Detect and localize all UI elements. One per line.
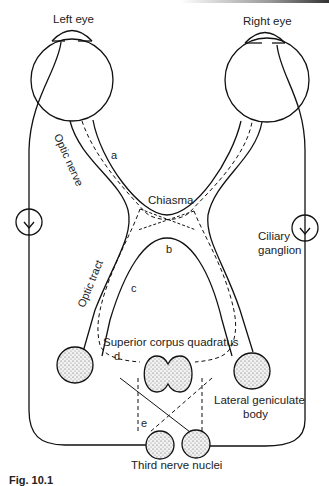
label-lateral-geniculate-body: body [243, 409, 268, 421]
label-right-eye: Right eye [243, 16, 292, 28]
label-chiasma: Chiasma [148, 195, 193, 207]
superior-corpus-quadratus [144, 356, 192, 392]
label-ganglion: ganglion [258, 245, 301, 257]
label-lateral-geniculate: Lateral geniculate [214, 395, 305, 407]
lesion-marker-e: e [141, 418, 147, 429]
figure-caption: Fig. 10.1 [9, 474, 53, 486]
lesion-marker-d: d [114, 351, 120, 362]
lesion-marker-c: c [131, 283, 137, 294]
right-lateral-geniculate-body [234, 353, 270, 389]
label-left-eye: Left eye [53, 14, 94, 26]
label-ciliary: Ciliary [258, 231, 290, 243]
label-third-nerve-nuclei: Third nerve nuclei [131, 460, 222, 472]
pupillary-pathway-diagram [0, 0, 329, 486]
lesion-marker-a: a [111, 150, 117, 161]
right-eye [225, 33, 309, 123]
left-eye [31, 31, 113, 122]
right-third-nerve-nucleus [182, 430, 210, 458]
left-third-nerve-nucleus [146, 431, 174, 459]
label-superior-corpus-quadratus: Superior corpus quadratus [103, 337, 239, 349]
left-lateral-geniculate-body [57, 347, 93, 383]
lesion-marker-b: b [166, 244, 172, 255]
